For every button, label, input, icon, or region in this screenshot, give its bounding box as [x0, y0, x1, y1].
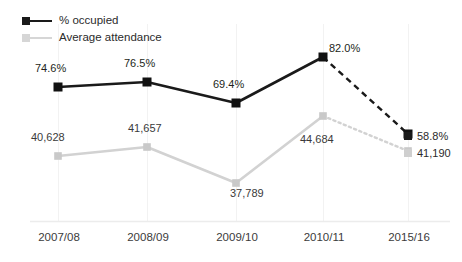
chart-legend: % occupied Average attendance — [22, 12, 222, 46]
legend-label-percent-occupied: % occupied — [59, 14, 118, 27]
data-label-occupied-2007-08: 74.6% — [35, 62, 66, 74]
legend-item-average-attendance[interactable]: Average attendance — [22, 29, 222, 46]
end-swatch-occupied — [404, 132, 412, 140]
end-label-attendance-2015-16: 41,190 — [404, 147, 451, 159]
legend-label-average-attendance: Average attendance — [59, 31, 162, 44]
x-tick-2008-09: 2008/09 — [127, 231, 169, 244]
x-tick-2007-08: 2007/08 — [38, 231, 80, 244]
series-percent-occupied — [54, 53, 413, 139]
data-label-occupied-2008-09: 76.5% — [124, 57, 155, 69]
data-label-attendance-2010-11: 44,684 — [300, 133, 334, 145]
x-tick-2010-11: 2010/11 — [304, 231, 345, 244]
series-average-attendance — [54, 112, 412, 187]
end-text-occupied: 58.8% — [417, 130, 448, 142]
legend-item-percent-occupied[interactable]: % occupied — [22, 12, 222, 29]
data-label-occupied-2009-10: 69.4% — [213, 78, 244, 90]
line-chart: % occupied Average attendance 74.6% 76.5… — [0, 0, 462, 262]
legend-swatch-percent-occupied — [22, 15, 52, 26]
data-label-attendance-2009-10: 37,789 — [230, 187, 264, 199]
data-label-attendance-2007-08: 40,628 — [31, 131, 65, 143]
end-label-occupied-2015-16: 58.8% — [404, 130, 448, 142]
legend-swatch-average-attendance — [22, 32, 52, 43]
data-label-attendance-2008-09: 41,657 — [128, 122, 162, 134]
x-tick-2009-10: 2009/10 — [216, 231, 258, 244]
data-label-occupied-2010-11: 82.0% — [329, 42, 360, 54]
end-swatch-attendance — [404, 149, 412, 157]
x-tick-2015-16: 2015/16 — [388, 231, 430, 244]
end-text-attendance: 41,190 — [417, 147, 451, 159]
